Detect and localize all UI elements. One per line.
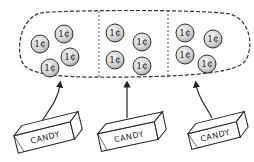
arrow-1 [42, 84, 60, 121]
coin-label: 1¢ [179, 50, 190, 60]
coin: 1¢ [133, 57, 151, 75]
coin-label: 1¢ [44, 63, 55, 73]
coin: 1¢ [198, 55, 216, 73]
coin-label: 1¢ [109, 28, 120, 38]
coin-label: 1¢ [201, 59, 212, 69]
coin: 1¢ [106, 24, 124, 42]
arrow-3 [196, 84, 212, 118]
coin: 1¢ [41, 59, 59, 77]
coin: 1¢ [61, 48, 79, 66]
coin-group-3: 1¢ 1¢ 1¢ 1¢ [176, 24, 222, 73]
coin-label: 1¢ [136, 37, 147, 47]
coin-label: 1¢ [34, 39, 45, 49]
coin-group-1: 1¢ 1¢ 1¢ 1¢ [31, 25, 79, 77]
coin: 1¢ [55, 25, 73, 43]
coin-label: 1¢ [179, 28, 190, 38]
coin: 1¢ [176, 46, 194, 64]
candy-bar-1: CANDY [12, 112, 84, 154]
candy-bar-3: CANDY [186, 111, 250, 149]
coin: 1¢ [31, 35, 49, 53]
candy-bar-2: CANDY [96, 112, 168, 152]
coin-label: 1¢ [64, 52, 75, 62]
coins-candy-diagram: 1¢ 1¢ 1¢ 1¢ 1¢ 1¢ 1¢ 1¢ 1¢ 1¢ 1¢ 1¢ CAND… [0, 0, 254, 162]
coin-label: 1¢ [207, 34, 218, 44]
coin: 1¢ [133, 33, 151, 51]
coin: 1¢ [176, 24, 194, 42]
coin: 1¢ [106, 51, 124, 69]
coin: 1¢ [204, 30, 222, 48]
coin-label: 1¢ [109, 55, 120, 65]
coin-group-2: 1¢ 1¢ 1¢ 1¢ [106, 24, 151, 75]
coin-label: 1¢ [58, 29, 69, 39]
coin-label: 1¢ [136, 61, 147, 71]
